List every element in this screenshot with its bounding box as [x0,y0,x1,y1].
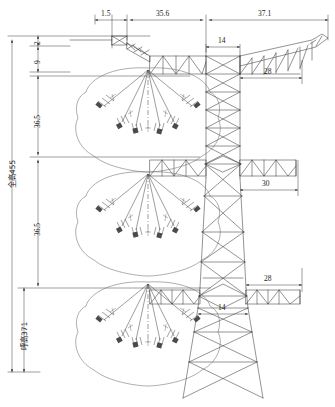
dim-upper-arm-reach: 28 [264,68,272,76]
dim-middle-arm-reach: 30 [262,180,270,188]
dim-lower-arm-reach: 28 [264,275,272,283]
dim-peak-offset: 1.5 [101,10,110,18]
conductor-assembly-middle [76,172,221,276]
dim-peak-cap: 2 [34,41,42,45]
tower-elevation-drawing: 1.5 35.6 37.1 2 9 36.5 36.5 全高455 呼高371 … [0,0,335,407]
dim-peak-to-upper-arm: 9 [34,60,42,64]
conductor-assembly-upper [76,68,221,172]
dim-upper-body-width: 14 [218,37,226,45]
label-ground-clearance: 呼高371 [21,322,29,350]
dim-lower-body-width: 14 [218,304,226,312]
dim-upper-arm-left: 35.6 [156,10,169,18]
dim-middle-to-lower-arm: 36.5 [34,223,42,236]
label-overall-height: 全高455 [9,160,17,188]
dim-upper-to-middle-arm: 36.5 [34,115,42,128]
dim-upper-arm-right: 37.1 [258,10,271,18]
tower-drawing-canvas [0,0,335,407]
